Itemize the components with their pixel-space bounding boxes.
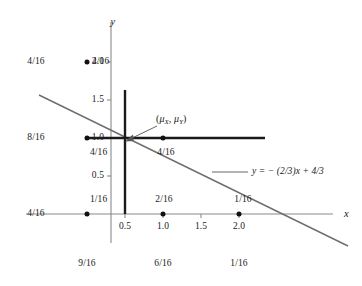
y-tick-label-3: 0.5 (92, 171, 104, 181)
column-marginal-1: 6/16 (154, 259, 171, 269)
data-point-1-1 (161, 136, 166, 141)
point-label-0-0: 1/16 (90, 195, 107, 205)
y-axis-label: y (111, 17, 116, 28)
probability-distribution-figure: y x 2.0 1.5 1.0 0.5 0.5 1.0 1.5 2.0 4/16… (0, 0, 362, 286)
mean-point-annotation: (μX, μY) (156, 114, 186, 125)
x-tick-label-3: 2.0 (233, 222, 245, 232)
column-marginal-2: 1/16 (230, 259, 247, 269)
x-tick-label-0: 0.5 (119, 222, 131, 232)
row-marginal-0: 4/16 (27, 209, 44, 219)
point-label-1-1: 4/16 (157, 148, 174, 158)
data-point-0-2 (85, 60, 90, 65)
x-axis-label: x (344, 209, 349, 220)
y-tick-label-1: 1.5 (92, 95, 104, 105)
y-tick-label-0: 1.0 (92, 133, 104, 143)
mean-annotation-close: ) (183, 113, 186, 124)
plot-canvas (0, 0, 362, 286)
data-point-0-0 (85, 212, 90, 217)
point-label-1-0: 2/16 (155, 195, 172, 205)
point-label-0-2: 4/16 (92, 57, 109, 67)
row-marginal-1: 8/16 (27, 133, 44, 143)
point-label-0-1: 4/16 (90, 148, 107, 158)
data-point-2-0 (237, 212, 242, 217)
regression-equation-label: y = − (2/3)x + 4/3 (252, 167, 324, 177)
data-point-0-1 (85, 136, 90, 141)
point-label-2-0: 1/16 (234, 195, 251, 205)
x-tick-label-2: 1.5 (195, 222, 207, 232)
row-marginal-2: 4/16 (27, 57, 44, 67)
column-marginal-0: 9/16 (78, 259, 95, 269)
x-tick-label-1: 1.0 (157, 222, 169, 232)
data-point-1-0 (161, 212, 166, 217)
